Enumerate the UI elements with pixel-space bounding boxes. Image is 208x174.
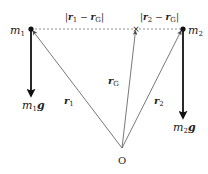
vector-r1-arrow [33,31,122,148]
label-r2: r2 [154,95,164,108]
label-m1g: m1g [22,99,45,113]
label-distance-r2-rG: |r2 − rG| [140,12,179,24]
label-rG: rG [108,75,119,88]
mass-m2-dot [180,26,185,31]
mass-m1-dot [28,26,33,31]
label-m1: m1 [10,24,25,38]
label-m2g: m2g [173,121,196,135]
label-distance-r1-rG: |r1 − rG| [65,12,104,24]
label-r1: r1 [64,95,74,108]
label-m2: m2 [188,24,203,38]
label-origin: O [118,155,126,166]
center-of-mass-marker: × [132,24,140,34]
diagram-canvas: × m1 m2 m1g m2g r1 r2 rG |r1 − rG| |r2 −… [0,0,208,174]
vector-rG-arrow [122,31,136,148]
